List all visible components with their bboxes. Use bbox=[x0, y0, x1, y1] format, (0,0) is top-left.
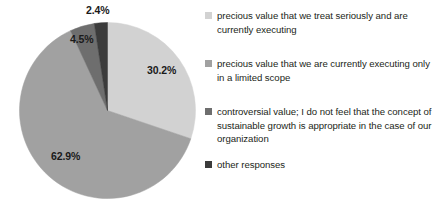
legend-item-precious-value-seriously[interactable]: precious value that we treat seriously a… bbox=[205, 9, 437, 36]
legend-swatch-icon bbox=[205, 108, 212, 115]
legend-item-controversial-value[interactable]: controversial value; I do not feel that … bbox=[205, 105, 437, 146]
slice-label-other-responses: 2.4% bbox=[86, 4, 110, 16]
pie-slices-group bbox=[19, 23, 195, 199]
legend-item-precious-value-limited-scope[interactable]: precious value that we are currently exe… bbox=[205, 57, 437, 84]
legend-swatch-icon bbox=[205, 12, 212, 19]
chart-legend: precious value that we treat seriously a… bbox=[205, 0, 440, 208]
slice-label-controversial-value: 4.5% bbox=[70, 33, 94, 45]
pie-plot-area: 30.2% 62.9% 4.5% 2.4% bbox=[0, 0, 208, 208]
pie-chart-figure: 30.2% 62.9% 4.5% 2.4% precious value tha… bbox=[0, 0, 440, 208]
legend-swatch-icon bbox=[205, 60, 212, 67]
slice-label-precious-value-seriously: 30.2% bbox=[147, 64, 176, 76]
legend-item-label: other responses bbox=[217, 158, 437, 172]
pie-svg bbox=[0, 0, 208, 208]
legend-item-other-responses[interactable]: other responses bbox=[205, 158, 437, 172]
legend-item-label: precious value that we treat seriously a… bbox=[217, 9, 437, 36]
slice-label-precious-value-limited-scope: 62.9% bbox=[51, 150, 80, 162]
legend-swatch-icon bbox=[205, 161, 212, 168]
legend-item-label: controversial value; I do not feel that … bbox=[217, 105, 437, 146]
legend-item-label: precious value that we are currently exe… bbox=[217, 57, 437, 84]
